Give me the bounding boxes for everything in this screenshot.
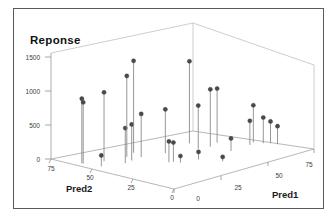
x-tick-label-25: 25 — [234, 184, 242, 191]
chart-title: Reponse — [30, 34, 81, 46]
figure-container: 1500 1000 500 0 75 50 25 0 0 25 50 75 Pr… — [0, 0, 335, 223]
floor-back-left-edge — [51, 131, 193, 159]
data-point-marker — [139, 112, 143, 116]
x-tick-label-75: 75 — [305, 161, 313, 168]
data-point-marker — [196, 103, 200, 107]
data-point-marker — [261, 115, 265, 119]
data-point-marker — [81, 100, 85, 104]
data-point-marker — [125, 74, 129, 78]
y-tick-50 — [90, 169, 92, 173]
y-tick-label-50: 50 — [86, 174, 94, 181]
data-point-marker — [275, 124, 279, 128]
plot-frame-border: 1500 1000 500 0 75 50 25 0 0 25 50 75 Pr… — [13, 8, 324, 209]
data-point-marker — [229, 136, 233, 140]
x-tick-label-0: 0 — [196, 195, 200, 202]
y-tick-75 — [49, 159, 51, 163]
data-point-marker — [102, 90, 106, 94]
x-tick-label-50: 50 — [275, 172, 283, 179]
data-point-marker — [187, 59, 191, 63]
data-point-marker — [208, 87, 212, 91]
box-top-right-edge — [193, 23, 314, 65]
y-tick-label-0: 0 — [170, 194, 174, 201]
data-point-marker — [248, 119, 252, 123]
y-tick-25 — [131, 179, 133, 183]
z-tick-label-0: 0 — [36, 156, 40, 163]
y-tick-label-75: 75 — [47, 165, 55, 172]
scatter3d-chart: 1500 1000 500 0 75 50 25 0 0 25 50 75 Pr… — [14, 9, 323, 208]
data-point-marker — [196, 150, 200, 154]
data-point-marker — [215, 86, 219, 90]
z-tick-label-1500: 1500 — [26, 54, 41, 61]
data-point-marker — [178, 154, 182, 158]
y-axis-title: Pred2 — [66, 183, 92, 194]
z-tick-label-1000: 1000 — [26, 88, 41, 95]
plot-box-3d — [51, 23, 314, 159]
data-points-layer — [80, 59, 280, 167]
floor-front-right-edge — [174, 149, 314, 189]
data-point-marker — [163, 107, 167, 111]
data-point-marker — [251, 103, 255, 107]
data-point-marker — [268, 119, 272, 123]
data-point-marker — [221, 155, 225, 159]
data-point-marker — [99, 153, 103, 157]
data-point-marker — [167, 139, 171, 143]
data-point-marker — [131, 59, 135, 63]
x-axis-ticks — [174, 149, 314, 193]
z-axis-ticks — [45, 57, 51, 159]
y-tick-label-25: 25 — [127, 184, 135, 191]
z-tick-label-500: 500 — [29, 122, 40, 129]
x-axis-title: Pred1 — [272, 189, 299, 200]
data-point-marker — [171, 140, 175, 144]
